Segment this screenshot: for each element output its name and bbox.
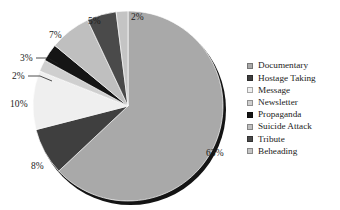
pie-percent-label: 3%	[20, 53, 33, 63]
legend-swatch-icon	[247, 75, 253, 81]
pie-percent-label: 10%	[10, 99, 28, 109]
pie-percent-label: 8%	[31, 161, 44, 171]
legend-item[interactable]: Message	[247, 84, 339, 96]
legend-item[interactable]: Tribute	[247, 133, 339, 145]
chart-legend: DocumentaryHostage TakingMessageNewslett…	[247, 60, 339, 158]
legend-item-label: Hostage Taking	[258, 74, 316, 83]
pie-chart-figure: 63%8%10%2%3%7%5%2% DocumentaryHostage Ta…	[0, 0, 340, 210]
legend-item-label: Suicide Attack	[258, 122, 312, 131]
legend-item-label: Message	[258, 86, 290, 95]
legend-item[interactable]: Beheading	[247, 145, 339, 157]
legend-item-label: Documentary	[258, 61, 308, 70]
pie-percent-label: 5%	[88, 16, 101, 26]
pie-percent-label: 63%	[206, 148, 224, 158]
legend-swatch-icon	[247, 63, 253, 69]
pie-percent-label: 2%	[12, 71, 25, 81]
pie-percent-label: 2%	[131, 12, 144, 22]
pie-percent-label: 7%	[49, 30, 62, 40]
legend-item-label: Tribute	[258, 135, 285, 144]
legend-item[interactable]: Propaganda	[247, 109, 339, 121]
legend-item-label: Beheading	[258, 147, 297, 156]
legend-item[interactable]: Hostage Taking	[247, 72, 339, 84]
legend-swatch-icon	[247, 136, 253, 142]
legend-item[interactable]: Documentary	[247, 60, 339, 72]
legend-swatch-icon	[247, 124, 253, 130]
legend-item[interactable]: Newsletter	[247, 97, 339, 109]
legend-item-label: Newsletter	[258, 98, 298, 107]
legend-item[interactable]: Suicide Attack	[247, 121, 339, 133]
legend-swatch-icon	[247, 87, 253, 93]
legend-item-label: Propaganda	[258, 110, 301, 119]
legend-swatch-icon	[247, 148, 253, 154]
legend-swatch-icon	[247, 100, 253, 106]
legend-swatch-icon	[247, 112, 253, 118]
